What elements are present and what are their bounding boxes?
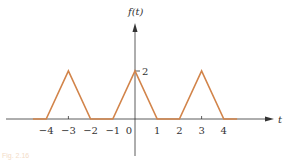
triangular-pulse-chart: −4−3−2−1012342 f(t) t [0, 0, 288, 164]
x-tick-label: 3 [198, 125, 204, 136]
figure-caption: Fig. 2.16 [2, 152, 29, 159]
x-tick-label: −4 [39, 125, 54, 136]
x-tick-label: −2 [83, 125, 98, 136]
x-tick-label: 2 [176, 125, 182, 136]
x-tick-label: 4 [221, 125, 227, 136]
x-tick-label: −3 [61, 125, 76, 136]
x-tick-label: 0 [126, 125, 132, 136]
y-tick-label: 2 [142, 66, 148, 77]
x-tick-label: −1 [105, 125, 120, 136]
y-axis-arrow-icon [133, 23, 138, 32]
y-axis-label: f(t) [127, 6, 144, 17]
x-tick-label: 1 [154, 125, 160, 136]
x-axis-arrow-icon [265, 117, 274, 122]
x-axis-label: t [278, 114, 283, 125]
axes [6, 23, 274, 156]
